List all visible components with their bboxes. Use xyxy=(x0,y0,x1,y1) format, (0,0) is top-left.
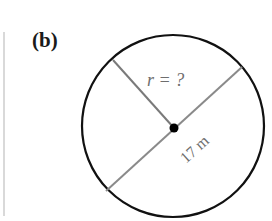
radius-label: r = ? xyxy=(147,70,184,90)
circle-diagram: r = ? 17 m xyxy=(0,0,272,221)
center-point xyxy=(170,124,179,133)
diameter-label: 17 m xyxy=(177,132,213,167)
